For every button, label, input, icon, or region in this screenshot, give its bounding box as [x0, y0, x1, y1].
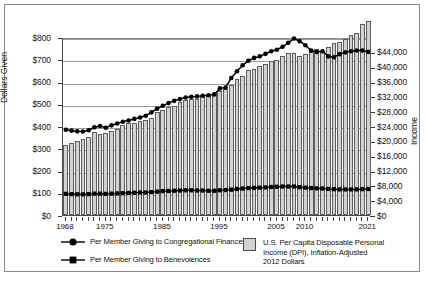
square-marker — [298, 185, 302, 189]
circle-marker — [309, 48, 314, 53]
square-marker — [349, 187, 353, 191]
x-axis-tick-mark — [110, 217, 111, 221]
x-axis-tick-mark — [287, 217, 288, 221]
legend-label-benevolences: Per Member Giving to Benevolences — [90, 255, 210, 265]
circle-marker — [235, 69, 240, 74]
square-marker — [178, 188, 182, 192]
circle-marker — [92, 125, 97, 130]
circle-marker — [200, 93, 205, 98]
legend-item-benevolences[interactable]: Per Member Giving to Benevolences — [60, 255, 210, 265]
y-axis-right-tick-label: $0 — [377, 211, 386, 221]
y-axis-left-tick-label: $600 — [32, 77, 51, 87]
circle-marker — [326, 54, 331, 59]
circle-marker — [155, 106, 160, 111]
circle-marker — [332, 55, 337, 60]
circle-marker — [98, 124, 103, 129]
circle-marker — [166, 101, 171, 106]
x-axis-tick-mark — [293, 217, 294, 221]
circle-marker — [269, 49, 274, 54]
square-marker — [195, 188, 199, 192]
square-marker — [132, 191, 136, 195]
square-marker — [98, 192, 102, 196]
circle-marker — [206, 93, 211, 98]
circle-line-marker-icon — [60, 237, 86, 247]
circle-marker — [161, 103, 166, 108]
circle-marker — [303, 43, 308, 48]
circle-marker — [286, 40, 291, 45]
square-marker — [360, 187, 364, 191]
x-axis-tick-mark — [253, 217, 254, 221]
x-axis-tick-mark — [310, 217, 311, 221]
x-axis-tick-mark — [116, 217, 117, 221]
square-marker — [172, 189, 176, 193]
x-axis-tick-mark — [133, 217, 134, 221]
y-axis-left-tick-label: $0 — [42, 211, 51, 221]
x-axis-tick-mark — [173, 217, 174, 221]
x-axis-tick-mark — [179, 217, 180, 221]
x-axis-tick-mark — [361, 217, 362, 221]
square-marker — [332, 187, 336, 191]
x-axis-tick-label: 1968 — [51, 222, 79, 231]
square-marker — [292, 184, 296, 188]
square-marker — [64, 192, 68, 196]
x-axis-tick-mark — [139, 217, 140, 221]
legend-item-dpi[interactable]: U.S. Per Capita Disposable Personal Inco… — [243, 238, 384, 267]
y-axis-left-tick-mark — [58, 216, 62, 217]
circle-marker — [223, 85, 228, 90]
x-axis-tick-mark — [242, 217, 243, 221]
square-marker — [212, 189, 216, 193]
y-axis-right-tick-label: $12,000 — [377, 166, 407, 176]
legend-item-congregational[interactable]: Per Member Giving to Congregational Fina… — [60, 237, 246, 247]
y-axis-right-tick-label: $20,000 — [377, 136, 407, 146]
circle-marker — [212, 92, 217, 97]
x-axis-tick-mark — [219, 217, 220, 221]
x-axis-tick-mark — [236, 217, 237, 221]
square-marker — [355, 187, 359, 191]
x-axis-tick-mark — [162, 217, 163, 221]
y-axis-right-tick-label: $8,000 — [377, 181, 402, 191]
y-axis-left-tick-label: $200 — [32, 166, 51, 176]
square-marker — [326, 187, 330, 191]
circle-marker — [109, 123, 114, 128]
circle-marker — [337, 52, 342, 57]
square-marker — [115, 191, 119, 195]
x-axis-tick-mark — [150, 217, 151, 221]
square-marker — [252, 186, 256, 190]
square-marker — [286, 184, 290, 188]
circle-marker — [218, 86, 223, 91]
square-line-marker-icon — [60, 255, 86, 265]
x-axis-tick-mark — [122, 217, 123, 221]
square-marker — [121, 191, 125, 195]
y-axis-right-tick-label: $28,000 — [377, 107, 407, 117]
x-axis-tick-mark — [225, 217, 226, 221]
y-axis-left-tick-label: $300 — [32, 144, 51, 154]
x-axis-tick-label: 1995 — [205, 222, 233, 231]
circle-marker — [195, 94, 200, 99]
x-axis-tick-label: 2005 — [262, 222, 290, 231]
x-axis-tick-mark — [190, 217, 191, 221]
x-axis-tick-mark — [270, 217, 271, 221]
y-axis-right-title: Income — [409, 117, 419, 145]
circle-marker — [103, 125, 108, 130]
x-axis-tick-mark — [304, 217, 305, 221]
legend-label-congregational: Per Member Giving to Congregational Fina… — [90, 237, 246, 247]
x-axis-tick-mark — [339, 217, 340, 221]
circle-marker — [315, 50, 320, 55]
square-marker — [75, 192, 79, 196]
x-axis-tick-mark — [156, 217, 157, 221]
x-axis-tick-mark — [88, 217, 89, 221]
square-marker — [138, 190, 142, 194]
plot-area — [62, 38, 370, 216]
square-marker — [155, 190, 159, 194]
x-axis-tick-mark — [196, 217, 197, 221]
x-axis-tick-label: 1985 — [148, 222, 176, 231]
square-marker — [69, 192, 73, 196]
circle-marker — [178, 97, 183, 102]
circle-marker — [126, 118, 131, 123]
x-axis-tick-mark — [65, 217, 66, 221]
square-marker — [81, 192, 85, 196]
x-axis-tick-mark — [71, 217, 72, 221]
x-axis-tick-mark — [264, 217, 265, 221]
x-axis-tick-mark — [105, 217, 106, 221]
circle-marker — [115, 121, 120, 126]
